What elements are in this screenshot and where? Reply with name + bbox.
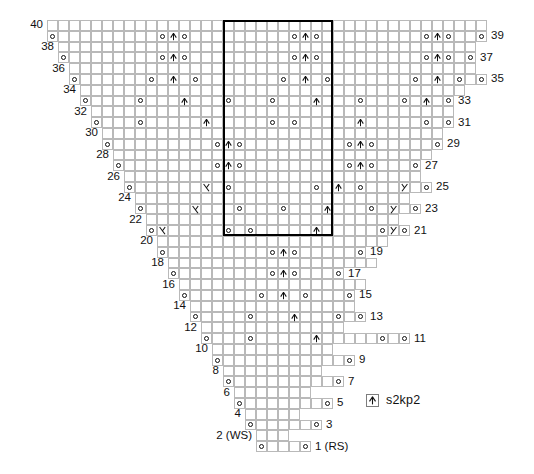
chart-cell-knit [223, 258, 234, 269]
chart-cell-yarn-over [278, 204, 289, 215]
chart-cell-knit [432, 42, 443, 53]
chart-cell-knit [212, 128, 223, 139]
yarn-over-icon [237, 142, 242, 147]
yarn-over-icon [303, 293, 308, 298]
chart-cell-knit [223, 193, 234, 204]
chart-cell-knit [245, 106, 256, 117]
chart-cell-s2kp2 [300, 74, 311, 85]
chart-cell-knit [377, 139, 388, 150]
legend-label-s2kp2: s2kp2 [386, 393, 420, 407]
chart-cell-knit [289, 366, 300, 377]
s2kp2-icon [356, 118, 365, 127]
chart-cell-knit [168, 139, 179, 150]
chart-cell-knit [212, 268, 223, 279]
chart-cell-knit [300, 225, 311, 236]
yarn-over-icon [402, 336, 407, 341]
chart-cell-knit [245, 139, 256, 150]
yarn-over-icon [402, 98, 407, 103]
chart-cell-knit [300, 20, 311, 31]
chart-cell-knit [245, 376, 256, 387]
chart-cell-knit [124, 31, 135, 42]
chart-cell-knit [322, 31, 333, 42]
chart-cell-knit [201, 128, 212, 139]
chart-cell-knit [113, 31, 124, 42]
chart-cell-knit [245, 42, 256, 53]
chart-cell-knit [344, 42, 355, 53]
chart-cell-knit [179, 182, 190, 193]
chart-cell-knit [377, 117, 388, 128]
chart-cell-knit [157, 236, 168, 247]
chart-cell-yarn-over [366, 139, 377, 150]
chart-cell-yarn-over [443, 31, 454, 42]
right-leaning-decrease-icon [400, 183, 409, 192]
chart-cell-knit [267, 290, 278, 301]
chart-cell-knit [124, 160, 135, 171]
chart-cell-knit [311, 301, 322, 312]
chart-cell-knit [322, 279, 333, 290]
chart-cell-knit [146, 96, 157, 107]
chart-cell-knit [278, 398, 289, 409]
chart-cell-knit [168, 150, 179, 161]
chart-cell-knit [91, 85, 102, 96]
chart-cell-knit [267, 225, 278, 236]
chart-cell-knit [278, 150, 289, 161]
chart-cell-knit [91, 20, 102, 31]
chart-cell-yarn-over [454, 74, 465, 85]
chart-cell-knit [289, 290, 300, 301]
chart-cell-knit [311, 117, 322, 128]
chart-cell-knit [289, 96, 300, 107]
chart-cell-yarn-over [267, 117, 278, 128]
s2kp2-icon [323, 205, 332, 214]
row-number-11: 11 [414, 333, 534, 344]
chart-cell-knit [410, 63, 421, 74]
yarn-over-icon [358, 314, 363, 319]
row-number-40: 40 [0, 19, 43, 30]
chart-cell-knit [102, 42, 113, 53]
chart-cell-knit [124, 63, 135, 74]
chart-cell-knit [432, 20, 443, 31]
chart-cell-knit [311, 398, 322, 409]
chart-cell-knit [322, 290, 333, 301]
chart-cell-knit [300, 387, 311, 398]
chart-cell-knit [223, 171, 234, 182]
chart-cell-yarn-over [377, 333, 388, 344]
chart-cell-knit [454, 52, 465, 63]
row-number-16: 16 [0, 279, 175, 290]
chart-cell-knit [245, 398, 256, 409]
yarn-over-icon [380, 336, 385, 341]
chart-cell-knit [366, 42, 377, 53]
chart-cell-knit [157, 171, 168, 182]
chart-cell-yarn-over [135, 96, 146, 107]
chart-cell-knit [223, 31, 234, 42]
chart-cell-knit [278, 63, 289, 74]
row-number-27: 27 [425, 160, 534, 171]
chart-cell-knit [377, 52, 388, 63]
chart-cell-knit [212, 85, 223, 96]
chart-cell-knit [179, 236, 190, 247]
chart-cell-knit [69, 20, 80, 31]
chart-cell-knit [146, 160, 157, 171]
chart-cell-knit [201, 42, 212, 53]
chart-cell-knit [322, 52, 333, 63]
row-number-13: 13 [370, 311, 534, 322]
row-number-20: 20 [0, 235, 153, 246]
chart-cell-knit [190, 52, 201, 63]
chart-cell-knit [234, 344, 245, 355]
yarn-over-icon [171, 271, 176, 276]
chart-cell-knit [278, 333, 289, 344]
chart-cell-yarn-over [399, 225, 410, 236]
chart-cell-knit [223, 312, 234, 323]
chart-cell-knit [333, 322, 344, 333]
chart-cell-knit [234, 290, 245, 301]
chart-cell-knit [69, 52, 80, 63]
yarn-over-icon [358, 250, 363, 255]
chart-cell-knit [322, 322, 333, 333]
chart-cell-s2kp2 [432, 31, 443, 42]
chart-cell-yarn-over [267, 247, 278, 258]
chart-cell-knit [190, 268, 201, 279]
s2kp2-icon [433, 75, 442, 84]
chart-cell-knit [300, 128, 311, 139]
row-number-2: 2 (WS) [0, 430, 252, 441]
chart-cell-knit [256, 106, 267, 117]
chart-cell-knit [223, 236, 234, 247]
